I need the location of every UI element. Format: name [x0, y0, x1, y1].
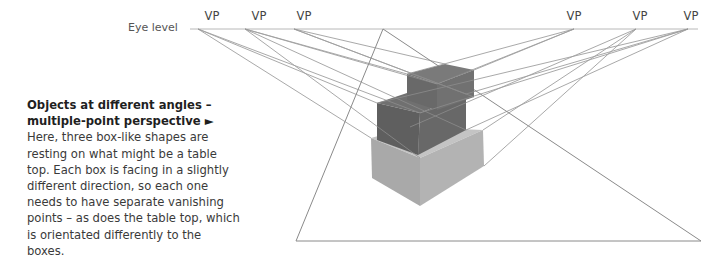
perspective-drawing	[0, 0, 720, 258]
